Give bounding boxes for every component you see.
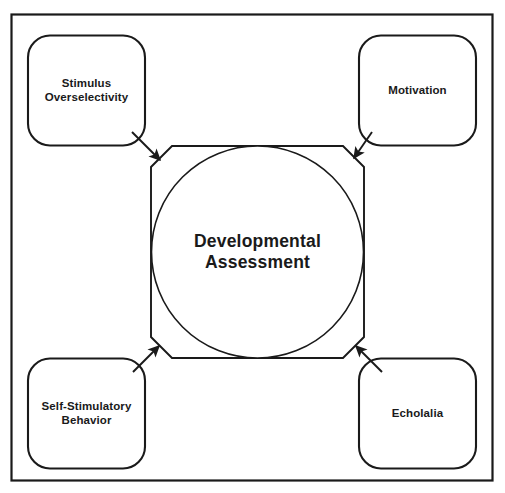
- node-hitbox-motivation[interactable]: [359, 35, 476, 145]
- diagram-canvas: Stimulus Overselectivity Motivation Self…: [0, 0, 505, 493]
- node-hitbox-stimulus-overselectivity[interactable]: [28, 35, 145, 145]
- node-hitbox-echolalia[interactable]: [359, 358, 476, 468]
- node-hitbox-self-stimulatory-behavior[interactable]: [28, 358, 145, 468]
- center-hitbox-developmental-assessment[interactable]: [151, 146, 364, 358]
